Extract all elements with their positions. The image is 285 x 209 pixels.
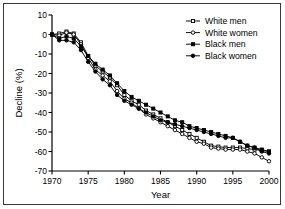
marker-filled-square [137, 99, 140, 102]
marker-filled-square [166, 115, 169, 118]
marker-filled-square [65, 35, 68, 38]
marker-filled-circle [217, 134, 221, 138]
marker-filled-circle [159, 119, 163, 123]
marker-filled-circle [152, 115, 156, 119]
marker-filled-square [87, 54, 90, 57]
marker-filled-circle [191, 54, 195, 58]
marker-filled-square [108, 74, 111, 77]
marker-filled-circle [94, 70, 98, 74]
marker-open-circle [260, 156, 264, 160]
marker-filled-circle [79, 48, 83, 52]
marker-open-circle [108, 80, 112, 84]
marker-filled-circle [180, 124, 184, 128]
x-tick-label: 1985 [151, 176, 170, 186]
x-tick-label: 1990 [187, 176, 206, 186]
marker-filled-circle [86, 60, 90, 64]
legend-item-white-women[interactable]: White women [186, 28, 258, 38]
marker-filled-circle [231, 136, 235, 140]
marker-filled-circle [130, 103, 134, 107]
marker-filled-square [173, 119, 176, 122]
marker-filled-square [123, 90, 126, 93]
marker-open-circle [267, 160, 271, 164]
marker-filled-circle [202, 130, 206, 134]
y-tick-label: -30 [35, 88, 48, 98]
marker-filled-square [72, 37, 75, 40]
y-tick-label: 10 [38, 10, 48, 20]
marker-open-circle [173, 128, 177, 132]
marker-filled-square [130, 95, 133, 98]
marker-filled-circle [209, 132, 213, 136]
marker-filled-circle [57, 39, 61, 43]
marker-open-circle [65, 31, 69, 35]
y-tick-label: -20 [35, 69, 48, 79]
marker-open-circle [195, 140, 199, 144]
marker-filled-circle [246, 144, 250, 148]
x-axis-title: Year [151, 189, 170, 200]
marker-filled-square [116, 82, 119, 85]
marker-filled-circle [224, 136, 228, 140]
y-tick-label: -70 [35, 166, 48, 176]
legend-label: White men [205, 16, 247, 26]
marker-open-circle [246, 150, 250, 154]
marker-open-circle [202, 142, 206, 146]
y-tick-label: 0 [42, 30, 47, 40]
marker-open-circle [253, 152, 256, 156]
marker-open-square [195, 136, 198, 139]
marker-filled-circle [144, 111, 148, 115]
marker-filled-circle [50, 33, 54, 37]
series-layer [50, 30, 271, 163]
marker-filled-circle [108, 83, 112, 87]
legend-item-black-men[interactable]: Black men [186, 39, 246, 49]
marker-filled-circle [123, 99, 127, 103]
marker-filled-square [144, 103, 147, 106]
marker-open-circle [101, 74, 105, 78]
series-line [52, 32, 269, 152]
marker-open-circle [188, 136, 192, 140]
marker-filled-circle [101, 78, 105, 82]
marker-filled-circle [173, 122, 177, 126]
line-chart: White menWhite womenBlack menBlack women… [0, 0, 285, 209]
marker-open-circle [72, 33, 76, 37]
legend-item-white-men[interactable]: White men [186, 16, 247, 26]
marker-filled-circle [195, 128, 199, 132]
marker-open-circle [166, 124, 170, 128]
legend-label: Black men [205, 39, 246, 49]
marker-open-circle [209, 146, 213, 150]
legend-item-black-women[interactable]: Black women [186, 51, 257, 61]
marker-filled-square [191, 43, 194, 46]
marker-filled-circle [115, 93, 119, 97]
y-tick-label: -50 [35, 127, 48, 137]
marker-open-circle [224, 148, 228, 152]
marker-open-circle [231, 148, 235, 152]
marker-filled-square [79, 45, 82, 48]
marker-filled-circle [188, 126, 192, 130]
marker-filled-square [94, 62, 97, 65]
x-tick-label: 1995 [223, 176, 242, 186]
marker-filled-square [159, 111, 162, 114]
legend-label: Black women [205, 51, 257, 61]
y-tick-label: -10 [35, 49, 48, 59]
x-tick-label: 1970 [43, 176, 62, 186]
marker-open-circle [115, 89, 119, 93]
x-tick-label: 1975 [79, 176, 98, 186]
marker-filled-circle [238, 140, 242, 144]
marker-filled-circle [72, 41, 76, 45]
chart-legend: White menWhite womenBlack menBlack women [186, 16, 258, 61]
marker-filled-circle [137, 107, 141, 111]
chart-page: White menWhite womenBlack menBlack women… [0, 0, 285, 209]
y-axis-title: Decline (%) [13, 68, 24, 117]
marker-open-square [188, 132, 191, 135]
marker-filled-square [152, 107, 155, 110]
y-tick-label: -40 [35, 108, 48, 118]
marker-open-circle [217, 147, 221, 151]
legend-label: White women [205, 28, 258, 38]
x-tick-label: 2000 [260, 176, 279, 186]
marker-open-circle [238, 148, 242, 152]
marker-open-circle [180, 132, 184, 136]
marker-filled-circle [253, 146, 256, 150]
x-tick-label: 1980 [115, 176, 134, 186]
marker-open-square [181, 129, 184, 132]
y-tick-label: -60 [35, 147, 48, 157]
marker-filled-circle [166, 121, 170, 125]
marker-open-square [191, 19, 194, 22]
